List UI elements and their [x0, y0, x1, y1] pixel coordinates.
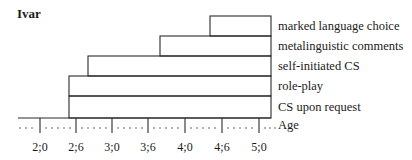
label-metalinguistic-comments: metalinguistic comments: [278, 39, 403, 53]
x-axis-label: Age: [278, 118, 299, 133]
tick-label-3-6: 3;6: [140, 140, 155, 155]
bars: [69, 16, 271, 118]
tick-label-5-0: 5;0: [251, 140, 266, 155]
bar-role-play: [69, 76, 271, 96]
bar-metalinguistic-comments: [160, 36, 271, 56]
label-cs-upon-request: CS upon request: [278, 100, 361, 114]
tick-label-4-6: 4;6: [214, 140, 229, 155]
bar-self-initiated-cs: [88, 56, 271, 76]
tick-label-3-0: 3;0: [104, 140, 119, 155]
x-axis: [18, 118, 271, 133]
tick-label-2-0: 2;0: [32, 140, 47, 155]
bar-cs-upon-request: [69, 96, 271, 118]
label-role-play: role-play: [278, 79, 323, 93]
tick-label-2-6: 2;6: [68, 140, 83, 155]
label-self-initiated-cs: self-initiated CS: [278, 59, 360, 73]
bar-marked-language-choice: [210, 16, 271, 36]
tick-label-4-0: 4;0: [177, 140, 192, 155]
label-marked-language-choice: marked language choice: [278, 19, 399, 33]
